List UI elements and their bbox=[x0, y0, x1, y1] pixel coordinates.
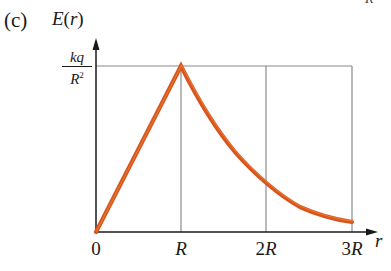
x-tick-2R-coef: 2 bbox=[255, 238, 265, 259]
grid-lines bbox=[96, 66, 352, 232]
plot-area bbox=[0, 0, 391, 271]
x-tick-2R-var: R bbox=[265, 238, 277, 259]
axes bbox=[96, 46, 370, 232]
x-tick-3R-coef: 3 bbox=[341, 238, 351, 259]
x-tick-R: R bbox=[175, 238, 187, 260]
x-tick-3R-var: R bbox=[351, 238, 363, 259]
y-axis-arrow-icon bbox=[93, 38, 100, 50]
x-axis-label: r bbox=[375, 230, 382, 252]
field-curve-line bbox=[96, 66, 352, 232]
x-tick-0: 0 bbox=[91, 238, 101, 260]
x-tick-3R: 3R bbox=[341, 238, 362, 260]
field-curve-highlight bbox=[97, 65, 353, 231]
x-tick-2R: 2R bbox=[255, 238, 276, 260]
